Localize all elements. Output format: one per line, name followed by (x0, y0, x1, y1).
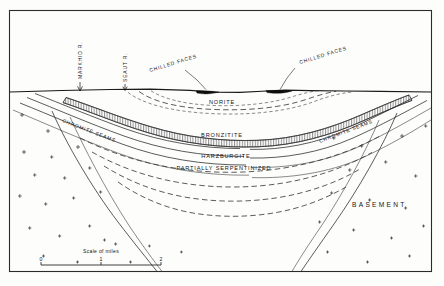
scale-tick-0: 0 (40, 256, 43, 262)
label-bronzitite: BRONZITITE (201, 132, 243, 138)
label-basement: BASEMENT (352, 201, 407, 208)
label-harzburgite: HARZBURGITE (201, 153, 250, 159)
scale-caption: Scale of miles (83, 248, 119, 254)
label-river-right: SEAUT R. (122, 53, 128, 82)
label-river-left: MARKHID R. (77, 42, 83, 79)
scale-tick-2: 2 (160, 256, 163, 262)
label-partially-serpentinized: PARTIALLY SERPENTINIZED (177, 165, 272, 171)
label-norite: NORITE (209, 99, 235, 105)
scale-tick-1: 1 (100, 256, 103, 262)
geologic-cross-section-figure: MARKHID R. SEAUT R. CHILLED FACES CHILLE… (0, 0, 444, 286)
